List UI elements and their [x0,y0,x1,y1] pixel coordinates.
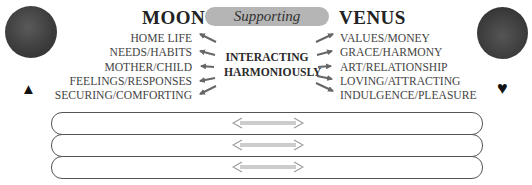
arrow-icon [200,34,216,42]
arrow-icon [200,51,215,55]
arrow-icon [318,66,331,67]
double-arrow-icon [232,138,304,152]
arrow-icon [201,66,214,67]
arrow-icon [317,51,332,55]
arrow-icon [317,76,332,79]
double-arrow-icon [232,116,304,130]
interaction-row [51,134,483,157]
double-arrow-icon [232,160,304,174]
interaction-rows [51,112,483,179]
arrow-icon [200,78,215,81]
interaction-row [51,112,483,135]
arrow-icon [316,83,333,91]
arrow-icon [316,34,333,42]
arrow-icon [200,86,216,94]
interaction-row [51,156,483,179]
keyword-arrows [0,0,532,110]
